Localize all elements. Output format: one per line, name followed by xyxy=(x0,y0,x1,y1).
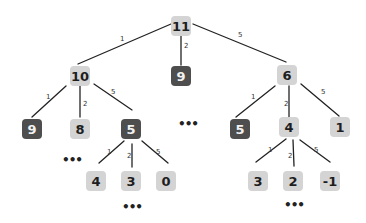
edge-n5a-n0 xyxy=(142,141,168,163)
edge-weight-label: 2 xyxy=(127,152,131,160)
tree-node-n4b: 4 xyxy=(86,171,106,191)
tree-node-n10: 10 xyxy=(70,66,90,86)
tree-node-n9b: 9 xyxy=(22,119,42,139)
edge-n6-n1 xyxy=(301,84,339,116)
tree-node-nm1: -1 xyxy=(320,171,340,191)
edge-weight-label: 1 xyxy=(268,146,272,154)
edge-n4a-n2 xyxy=(293,140,294,166)
ellipsis-more-children: ••• xyxy=(122,203,142,211)
edge-weight-label: 5 xyxy=(314,146,318,154)
ellipsis-more-children: ••• xyxy=(178,120,198,128)
tree-node-n3b: 3 xyxy=(248,171,268,191)
edge-weight-label: 2 xyxy=(83,100,87,108)
edge-n6-n5b xyxy=(236,86,275,117)
tree-node-n8: 8 xyxy=(70,119,90,139)
edge-weight-label: 2 xyxy=(284,100,288,108)
edge-weight-label: 5 xyxy=(156,148,160,156)
tree-node-n5a: 5 xyxy=(121,119,141,139)
ellipsis-more-children: ••• xyxy=(284,201,304,209)
edge-n5a-n4b xyxy=(99,141,124,163)
tree-node-n2: 2 xyxy=(283,171,303,191)
edge-n10-n9b xyxy=(32,86,66,117)
edge-weight-label: 5 xyxy=(321,88,325,96)
edge-weight-label: 2 xyxy=(288,152,292,160)
edge-weight-label: 1 xyxy=(107,148,111,156)
tree-node-n6: 6 xyxy=(277,65,297,85)
ellipsis-more-children: ••• xyxy=(62,156,82,164)
tree-node-n5b: 5 xyxy=(230,119,250,139)
tree-node-n4a: 4 xyxy=(279,117,299,137)
tree-node-n9a: 9 xyxy=(171,66,191,86)
tree-node-n3a: 3 xyxy=(121,171,141,191)
edge-weight-label: 1 xyxy=(120,35,124,43)
edge-weight-label: 1 xyxy=(251,93,255,101)
edge-weight-label: 2 xyxy=(184,42,188,50)
tree-node-n11: 11 xyxy=(171,16,191,36)
edge-n11-n6 xyxy=(193,24,286,62)
edge-weight-label: 5 xyxy=(111,88,115,96)
edge-weight-label: 5 xyxy=(238,31,242,39)
edge-weight-label: 1 xyxy=(46,93,50,101)
tree-node-n1: 1 xyxy=(330,117,350,137)
tree-node-n0: 0 xyxy=(156,171,176,191)
edge-n11-n10 xyxy=(78,24,171,64)
